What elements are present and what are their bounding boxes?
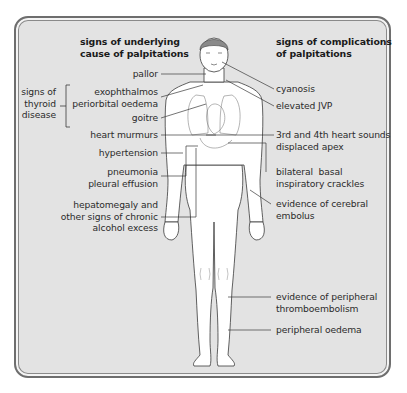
label-goitre: goitre	[70, 112, 158, 124]
label-heart-murmurs: heart murmurs	[70, 129, 158, 141]
left-heading: signs of underlying cause of palpitation…	[80, 36, 189, 59]
label-thromboembolism: evidence of peripheral thromboembolism	[276, 291, 377, 314]
right-heading: signs of complications of palpitations	[276, 36, 392, 59]
label-hypertension: hypertension	[70, 147, 158, 159]
thyroid-group-label: signs of thyroid disease	[20, 86, 56, 121]
label-pallor: pallor	[70, 68, 158, 80]
label-pneumonia: pneumonia pleural effusion	[70, 166, 158, 189]
label-cerebral-embolus: evidence of cerebral embolus	[276, 198, 368, 221]
label-hepatomegaly: hepatomegaly and other signs of chronic …	[50, 199, 158, 234]
label-elevated-jvp: elevated JVP	[276, 100, 332, 112]
label-exophthalmos: exophthalmos periorbital oedema	[70, 86, 158, 109]
label-cyanosis: cyanosis	[276, 83, 315, 95]
label-peripheral-oedema: peripheral oedema	[276, 324, 362, 336]
body-outline	[164, 38, 265, 366]
label-heart-sounds: 3rd and 4th heart sounds displaced apex	[276, 129, 390, 152]
label-crackles: bilateral basal inspiratory crackles	[276, 166, 364, 189]
